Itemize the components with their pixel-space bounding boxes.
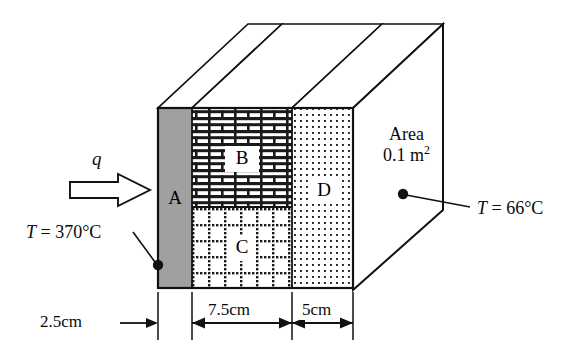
dimension-label-d: 5cm xyxy=(300,300,333,320)
layer-label-d: D xyxy=(310,178,338,204)
diagram-canvas xyxy=(0,0,584,354)
heat-flux-symbol: q xyxy=(92,148,102,170)
dimension-label-bc: 7.5cm xyxy=(206,300,252,320)
hot-face-temperature: T = 370°C xyxy=(26,222,101,243)
figure-root: q A B C D Area 0.1 m2 T = 370°C T = 66°C… xyxy=(0,0,584,354)
dim-bc-arrowhead-left xyxy=(192,318,205,329)
area-exponent: 2 xyxy=(424,143,430,157)
dim-bc-arrowhead-right xyxy=(279,318,292,329)
cold-temp-symbol: T xyxy=(477,198,487,218)
dim-d-arrowhead-right xyxy=(340,318,353,329)
hot-temp-symbol: T xyxy=(26,222,36,242)
heat-flux-arrow xyxy=(70,174,150,206)
cold-temp-value: 66°C xyxy=(506,198,543,218)
hot-leader-line xyxy=(133,232,155,262)
hot-face-marker-dot xyxy=(153,260,163,270)
layer-label-b: B xyxy=(225,146,259,172)
layer-label-a: A xyxy=(164,188,186,210)
dim-a-arrowhead xyxy=(146,318,158,328)
hot-temp-equals: = xyxy=(41,222,51,242)
area-unit: m xyxy=(410,145,424,165)
layer-label-c: C xyxy=(228,235,256,261)
q-arrow-shape xyxy=(70,174,150,206)
area-value-line: 0.1 m2 xyxy=(383,145,430,166)
dimension-label-a: 2.5cm xyxy=(38,312,84,332)
hot-temp-value: 370°C xyxy=(55,222,101,242)
area-value: 0.1 xyxy=(383,145,406,165)
cold-face-temperature: T = 66°C xyxy=(477,198,543,219)
area-annotation: Area 0.1 m2 xyxy=(383,124,430,166)
area-label: Area xyxy=(383,124,430,145)
cold-temp-equals: = xyxy=(492,198,502,218)
cold-face-marker-dot xyxy=(398,189,408,199)
